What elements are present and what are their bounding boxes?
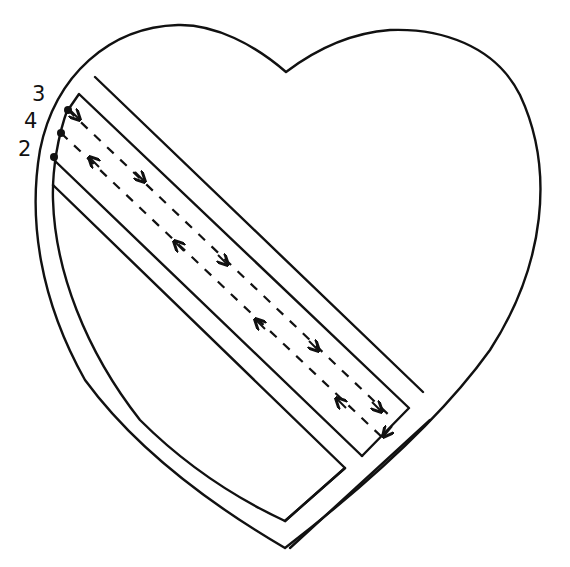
point-4-dot — [57, 129, 65, 137]
arrow-icon — [135, 172, 145, 182]
right-border-line — [290, 420, 430, 548]
point-3-dot — [64, 106, 72, 114]
diagonal-strip — [68, 94, 409, 456]
strip-lower-edge-extension — [54, 160, 362, 456]
arrow-icon — [174, 241, 184, 251]
dashed-path-backward — [61, 133, 385, 440]
point-2-dot — [50, 153, 58, 161]
arrows-backward — [89, 157, 392, 437]
upper-parallel-line — [95, 77, 423, 392]
heart-diagram: 3 4 2 — [0, 0, 570, 567]
label-2: 2 — [18, 137, 31, 161]
heart-outline — [36, 25, 541, 548]
inner-border-curve — [53, 108, 285, 521]
dashed-path-forward — [68, 110, 392, 418]
label-4: 4 — [24, 109, 37, 133]
arrow-icon — [372, 402, 382, 412]
label-3: 3 — [32, 82, 45, 106]
